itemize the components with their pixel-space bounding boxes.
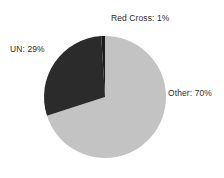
pie-label-un: UN: 29%: [10, 44, 45, 54]
pie-label-red-cross: Red Cross: 1%: [111, 13, 169, 23]
pie-chart-figure: Red Cross: 1% UN: 29% Other: 70%: [0, 0, 224, 178]
pie-label-other: Other: 70%: [168, 88, 212, 98]
